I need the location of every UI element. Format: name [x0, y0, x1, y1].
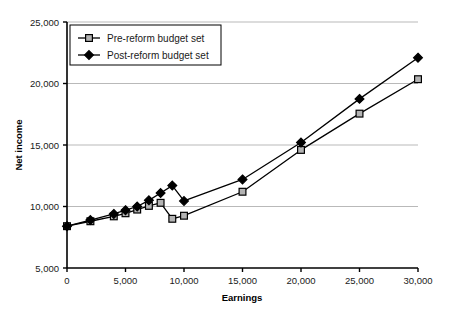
x-tick-label: 5,000 — [114, 275, 138, 286]
y-tick-label: 20,000 — [30, 78, 59, 89]
legend-label: Pre-reform budget set — [107, 33, 204, 44]
x-tick-label: 30,000 — [403, 275, 432, 286]
x-axis-title: Earnings — [222, 292, 263, 303]
x-tick-label: 15,000 — [228, 275, 257, 286]
legend-label: Post-reform budget set — [107, 50, 209, 61]
y-tick-label: 5,000 — [35, 263, 59, 274]
y-tick-label: 10,000 — [30, 201, 59, 212]
chart-legend: Pre-reform budget setPost-reform budget … — [70, 25, 221, 65]
y-tick-label: 25,000 — [30, 17, 59, 28]
x-tick-label: 0 — [64, 275, 69, 286]
chart-container: 5,00010,00015,00020,00025,000 05,00010,0… — [0, 0, 456, 318]
y-axis-ticks: 5,00010,00015,00020,00025,000 — [30, 17, 67, 274]
y-axis-title: Net income — [13, 119, 24, 170]
x-tick-label: 10,000 — [169, 275, 198, 286]
line-chart: 5,00010,00015,00020,00025,000 05,00010,0… — [0, 0, 456, 318]
y-tick-label: 15,000 — [30, 140, 59, 151]
x-axis-ticks: 05,00010,00015,00020,00025,00030,000 — [64, 268, 432, 286]
x-tick-label: 25,000 — [345, 275, 374, 286]
x-tick-label: 20,000 — [286, 275, 315, 286]
